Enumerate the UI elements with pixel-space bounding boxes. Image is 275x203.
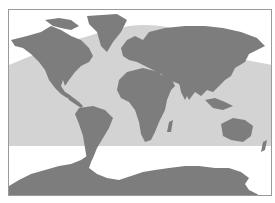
map-frame	[8, 9, 272, 196]
world-map	[9, 10, 272, 196]
antarctica-region	[9, 156, 261, 196]
